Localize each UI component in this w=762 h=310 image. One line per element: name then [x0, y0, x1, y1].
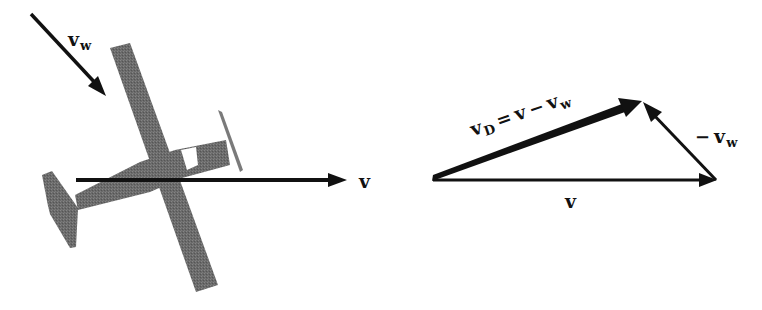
label-symbol: v — [543, 89, 561, 113]
neg-wind-label: −vw — [695, 127, 737, 146]
minus-sign: − — [695, 126, 710, 147]
velocity-vector-label: v — [359, 172, 370, 191]
base-vector-label: v — [565, 192, 576, 211]
label-subscript: w — [80, 38, 91, 53]
vector-triangle — [432, 98, 717, 187]
airplane-icon — [42, 43, 243, 292]
wind-vector-label: vw — [68, 30, 91, 49]
label-symbol: v — [68, 28, 79, 50]
wind-arrow — [31, 14, 106, 96]
label-symbol: v — [359, 170, 370, 192]
label-symbol: v — [565, 190, 576, 212]
label-subscript: w — [726, 135, 737, 150]
airplane-tail — [42, 171, 78, 248]
label-symbol: v — [714, 125, 725, 147]
vector-diagram: vw v vD=v−vw −vw v — [0, 0, 762, 310]
diagram-canvas — [0, 0, 762, 310]
